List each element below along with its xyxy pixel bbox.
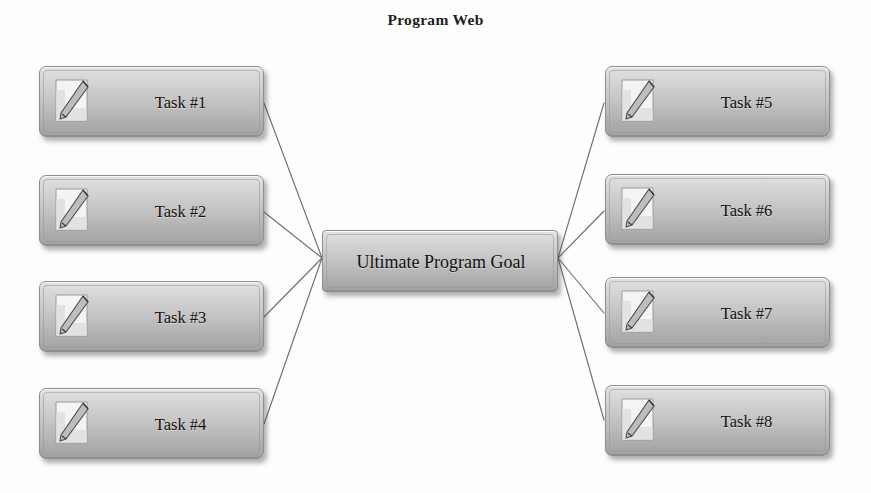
pencil-document-icon bbox=[619, 78, 659, 125]
pencil-document-icon bbox=[53, 187, 93, 234]
pencil-document-icon bbox=[53, 400, 93, 447]
connector-task4-to-goal bbox=[264, 258, 322, 424]
task-node-label: Task #5 bbox=[664, 67, 829, 138]
task-node-label: Task #2 bbox=[98, 176, 263, 247]
task-node-6[interactable]: Task #6 bbox=[605, 174, 830, 245]
pencil-document-icon bbox=[619, 289, 659, 336]
ultimate-program-goal-node[interactable]: Ultimate Program Goal bbox=[322, 230, 558, 292]
task-node-4[interactable]: Task #4 bbox=[39, 388, 264, 459]
task-node-label: Task #4 bbox=[98, 389, 263, 460]
diagram-canvas: Program Web Task #1 bbox=[0, 0, 871, 493]
goal-node-label: Ultimate Program Goal bbox=[323, 231, 559, 293]
task-node-5[interactable]: Task #5 bbox=[605, 66, 830, 137]
pencil-document-icon bbox=[53, 293, 93, 340]
task-node-label: Task #6 bbox=[664, 175, 829, 246]
task-node-8[interactable]: Task #8 bbox=[605, 385, 830, 456]
connector-goal-to-task7 bbox=[558, 258, 604, 313]
task-node-3[interactable]: Task #3 bbox=[39, 281, 264, 352]
task-node-7[interactable]: Task #7 bbox=[605, 277, 830, 348]
pencil-document-icon bbox=[619, 397, 659, 444]
task-node-1[interactable]: Task #1 bbox=[39, 66, 264, 137]
connector-goal-to-task8 bbox=[558, 258, 604, 420]
task-node-2[interactable]: Task #2 bbox=[39, 175, 264, 246]
task-node-label: Task #3 bbox=[98, 282, 263, 353]
task-node-label: Task #1 bbox=[98, 67, 263, 138]
pencil-document-icon bbox=[619, 186, 659, 233]
connector-task3-to-goal bbox=[264, 258, 322, 317]
pencil-document-icon bbox=[53, 78, 93, 125]
task-node-label: Task #7 bbox=[664, 278, 829, 349]
task-node-label: Task #8 bbox=[664, 386, 829, 457]
